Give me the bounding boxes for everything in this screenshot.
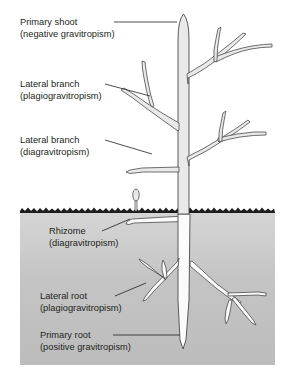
label-rhizome-line1: Rhizome (49, 226, 86, 236)
label-primary-root-line1: Primary root (40, 330, 91, 340)
gravitropism-diagram: Primary shoot (negative gravitropism) La… (0, 0, 295, 369)
primary-shoot-organ (178, 14, 189, 214)
lateral-root-right-horizontal (228, 292, 266, 296)
label-primary-shoot-line1: Primary shoot (20, 17, 78, 27)
label-lateral-branch-plagio-line1: Lateral branch (20, 79, 79, 89)
middle-left-branch-fork (142, 61, 154, 107)
shoot-system (121, 14, 272, 214)
lower-right-branch (187, 120, 250, 166)
label-lateral-branch-dia-line2: (diagravitropism) (20, 147, 89, 157)
label-rhizome-line2: (diagravitropism) (49, 238, 118, 248)
label-primary-root-line2: (positive gravitropism) (40, 342, 131, 352)
leader-lateral-branch-dia (105, 140, 152, 154)
label-primary-shoot-line2: (negative gravitropism) (20, 29, 115, 39)
lower-left-horizontal-branch (126, 167, 179, 174)
label-lateral-root-line1: Lateral root (40, 291, 87, 301)
plant-gravitropism-illustration: Primary shoot (negative gravitropism) La… (0, 0, 295, 369)
rhizome-sprout-leaf (133, 189, 139, 201)
label-lateral-root-line2: (plagiogravitropism) (40, 303, 122, 313)
label-lateral-branch-plagio-line2: (plagiogravitropism) (20, 91, 102, 101)
soil-surface-line (20, 208, 275, 214)
label-lateral-branch-dia-line1: Lateral branch (20, 135, 79, 145)
lower-right-branch-fork (218, 132, 266, 142)
